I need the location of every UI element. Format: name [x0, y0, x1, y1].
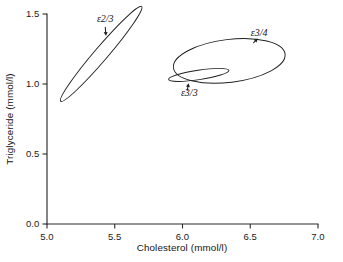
x-axis-title: Cholesterol (mmol/l) [137, 242, 228, 253]
ellipse-e3/3 [168, 66, 230, 84]
label-e3/4: ε3/4 [251, 27, 268, 38]
label-e3/3: ε3/3 [181, 87, 198, 98]
confidence-ellipse-plot: 5.05.56.06.57.0 0.00.51.01.5 ε2/3ε3/4ε3/… [0, 0, 343, 262]
chart-figure: 5.05.56.06.57.0 0.00.51.01.5 ε2/3ε3/4ε3/… [0, 0, 343, 262]
arrow-shaft-e3/3 [187, 87, 188, 90]
ellipse-outline-e3/3 [168, 66, 230, 84]
y-tick-label: 1.5 [26, 8, 40, 19]
y-tick-label: 1.0 [26, 78, 40, 89]
arrow-head-e2/3 [104, 32, 108, 36]
x-tick-label: 5.5 [108, 231, 122, 242]
y-axis-ticks [43, 14, 48, 224]
x-axis-ticks [47, 224, 318, 229]
axis-lines [47, 14, 318, 224]
label-e2/3: ε2/3 [97, 13, 114, 24]
arrow-shaft-e3/4 [254, 41, 256, 43]
y-axis-tick-labels: 0.00.51.01.5 [26, 8, 40, 229]
x-tick-label: 7.0 [311, 231, 325, 242]
ellipse-outlines [56, 2, 288, 106]
x-axis-tick-labels: 5.05.56.06.57.0 [40, 231, 325, 242]
ellipse-annotations: ε2/3ε3/4ε3/3 [97, 13, 268, 98]
y-tick-label: 0.5 [26, 148, 40, 159]
y-tick-label: 0.0 [26, 218, 40, 229]
x-tick-label: 6.0 [176, 231, 190, 242]
y-axis-title: Triglyceride (mmol/l) [4, 73, 15, 165]
x-tick-label: 5.0 [40, 231, 54, 242]
x-tick-label: 6.5 [243, 231, 257, 242]
